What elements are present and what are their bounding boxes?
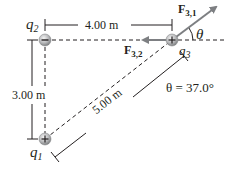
label-f31: F3,1 xyxy=(178,3,197,18)
label-q1-symbol: q xyxy=(30,144,38,160)
charge-diagram: q2 q3 q1 F3,1 F3,2 4.00 m 3.00 m 5.00 m … xyxy=(0,0,233,175)
theta-arc xyxy=(189,28,193,40)
label-vertical-distance: 3.00 m xyxy=(11,89,46,101)
label-q1-subscript: 1 xyxy=(38,151,43,162)
label-f31-subscript: 3,1 xyxy=(185,8,196,18)
label-horizontal-distance: 4.00 m xyxy=(84,19,119,31)
label-q1: q1 xyxy=(30,145,43,162)
diagonal-dimension-line xyxy=(51,51,188,162)
label-q2: q2 xyxy=(26,17,39,34)
label-f32-subscript: 3,2 xyxy=(131,49,142,59)
label-q2-subscript: 2 xyxy=(34,23,39,34)
charge-q3 xyxy=(166,34,178,46)
label-q2-symbol: q xyxy=(26,16,34,32)
label-f32: F3,2 xyxy=(124,44,143,59)
charge-q1 xyxy=(39,133,51,145)
label-theta: θ xyxy=(196,27,203,42)
label-theta-value: θ = 37.0° xyxy=(166,81,214,94)
charge-q2 xyxy=(39,34,51,46)
label-q3-subscript: 3 xyxy=(186,49,191,60)
label-q3: q3 xyxy=(179,44,191,60)
